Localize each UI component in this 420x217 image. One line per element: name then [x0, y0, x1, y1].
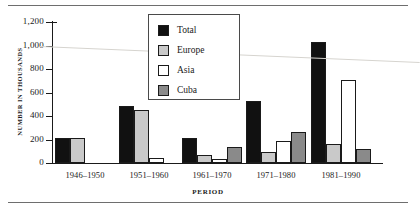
bar-cuba — [291, 132, 306, 163]
x-axis-category-label: 1981–1990 — [293, 170, 389, 180]
y-axis-tick-label: 600 — [4, 88, 44, 97]
y-axis-tick-label: 400 — [4, 111, 44, 120]
y-axis-tick-label: 1,000 — [4, 41, 44, 50]
bar-total — [119, 106, 134, 163]
x-axis-title: PERIOD — [0, 188, 416, 196]
y-axis-tick-cap — [52, 163, 57, 164]
legend-swatch-total — [158, 25, 169, 36]
y-axis-tick — [46, 69, 52, 70]
legend-label: Cuba — [177, 85, 197, 95]
legend-swatch-cuba — [158, 85, 169, 96]
bar-total — [246, 101, 261, 163]
bar-asia — [149, 158, 164, 163]
bar-europe — [261, 152, 276, 163]
y-axis-title: NUMBER IN THOUSANDS — [16, 17, 23, 167]
legend-item: Asia — [158, 60, 239, 80]
y-axis-tick-cap — [52, 22, 57, 23]
bar-europe — [134, 110, 149, 163]
legend-label: Asia — [177, 65, 194, 75]
bar-total — [311, 42, 326, 163]
bar-total — [55, 138, 70, 163]
bar-asia — [276, 141, 291, 163]
bar-cuba — [227, 147, 242, 163]
legend-item: Cuba — [158, 80, 239, 100]
legend-item: Total — [158, 20, 239, 40]
bar-europe — [197, 155, 212, 163]
legend-label: Total — [177, 25, 196, 35]
y-axis-tick-label: 0 — [4, 158, 44, 167]
y-axis-tick — [46, 140, 52, 141]
y-axis-line — [52, 21, 53, 164]
y-axis-tick — [46, 93, 52, 94]
bar-europe — [326, 144, 341, 163]
x-axis-line — [52, 163, 383, 164]
legend-swatch-asia — [158, 65, 169, 76]
y-axis-tick-label: 800 — [4, 64, 44, 73]
y-axis-tick — [46, 46, 52, 47]
bar-europe — [70, 138, 85, 163]
chart-legend: TotalEuropeAsiaCuba — [148, 14, 240, 100]
legend-item: Europe — [158, 40, 239, 60]
y-axis-tick — [46, 116, 52, 117]
legend-swatch-europe — [158, 45, 169, 56]
bar-asia — [341, 80, 356, 163]
y-axis-tick-label: 1,200 — [4, 17, 44, 26]
y-axis-tick-label: 200 — [4, 135, 44, 144]
bar-total — [182, 138, 197, 163]
legend-label: Europe — [177, 45, 204, 55]
bar-asia — [212, 159, 227, 163]
bar-cuba — [356, 149, 371, 163]
